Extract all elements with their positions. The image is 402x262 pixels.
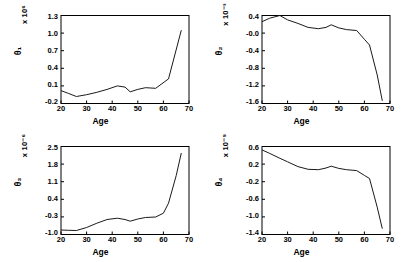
x-tick-labels-theta1: 20 30 40 50 60 70 <box>0 0 201 131</box>
x-tick: 20 <box>52 105 70 113</box>
x-tick: 30 <box>78 105 96 113</box>
x-tick: 40 <box>103 236 121 244</box>
x-tick: 60 <box>154 105 172 113</box>
figure-panel-grid: x 10⁶ θ₁ 1.3 1.0 0.7 0.4 0.1 -0.2 <box>0 0 402 262</box>
x-tick: 20 <box>253 236 271 244</box>
x-axis-label-theta4: Age <box>201 247 402 257</box>
chart-panel-theta3: x 10⁻⁶ θ₃ 2.5 1.8 1.1 0.4 -0.3 -1.0 <box>0 131 201 262</box>
x-tick: 40 <box>103 105 121 113</box>
x-axis-label-theta3: Age <box>0 247 201 257</box>
x-tick: 20 <box>52 236 70 244</box>
x-tick: 50 <box>129 236 147 244</box>
x-tick: 70 <box>180 105 198 113</box>
x-tick: 50 <box>330 105 348 113</box>
x-tick: 70 <box>381 236 399 244</box>
x-tick: 40 <box>304 236 322 244</box>
x-axis-label-theta2: Age <box>201 116 402 126</box>
x-tick: 70 <box>180 236 198 244</box>
x-tick-labels-theta3: 20 30 40 50 60 70 <box>0 131 201 262</box>
x-tick-labels-theta4: 20 30 40 50 60 70 <box>201 131 402 262</box>
x-tick: 50 <box>330 236 348 244</box>
x-tick: 30 <box>279 236 297 244</box>
x-tick: 40 <box>304 105 322 113</box>
chart-panel-theta1: x 10⁶ θ₁ 1.3 1.0 0.7 0.4 0.1 -0.2 <box>0 0 201 131</box>
x-axis-label-theta1: Age <box>0 116 201 126</box>
x-tick: 20 <box>253 105 271 113</box>
x-tick: 60 <box>355 236 373 244</box>
x-tick: 70 <box>381 105 399 113</box>
x-tick: 50 <box>129 105 147 113</box>
x-tick: 60 <box>154 236 172 244</box>
x-tick-labels-theta2: 20 30 40 50 60 70 <box>201 0 402 131</box>
x-tick: 30 <box>78 236 96 244</box>
chart-panel-theta4: x 10⁻⁹ θ₄ 0.6 0.2 -0.2 -0.6 -1.0 -1.4 <box>201 131 402 262</box>
x-tick: 30 <box>279 105 297 113</box>
x-tick: 60 <box>355 105 373 113</box>
chart-panel-theta2: x 10⁻³ θ₂ 0.4 -0.0 -0.4 -0.8 -1.2 -1.6 <box>201 0 402 131</box>
